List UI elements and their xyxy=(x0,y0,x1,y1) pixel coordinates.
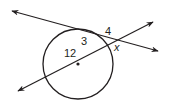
label-unknown-x: x xyxy=(113,41,120,53)
center-point xyxy=(76,62,79,65)
label-internal-segment-12: 12 xyxy=(64,47,76,59)
secant-line-through-center xyxy=(18,22,153,91)
secant-circle-diagram: 4 3 12 x xyxy=(0,0,170,107)
label-internal-segment-3: 3 xyxy=(81,35,87,47)
label-external-segment-4: 4 xyxy=(105,25,111,37)
